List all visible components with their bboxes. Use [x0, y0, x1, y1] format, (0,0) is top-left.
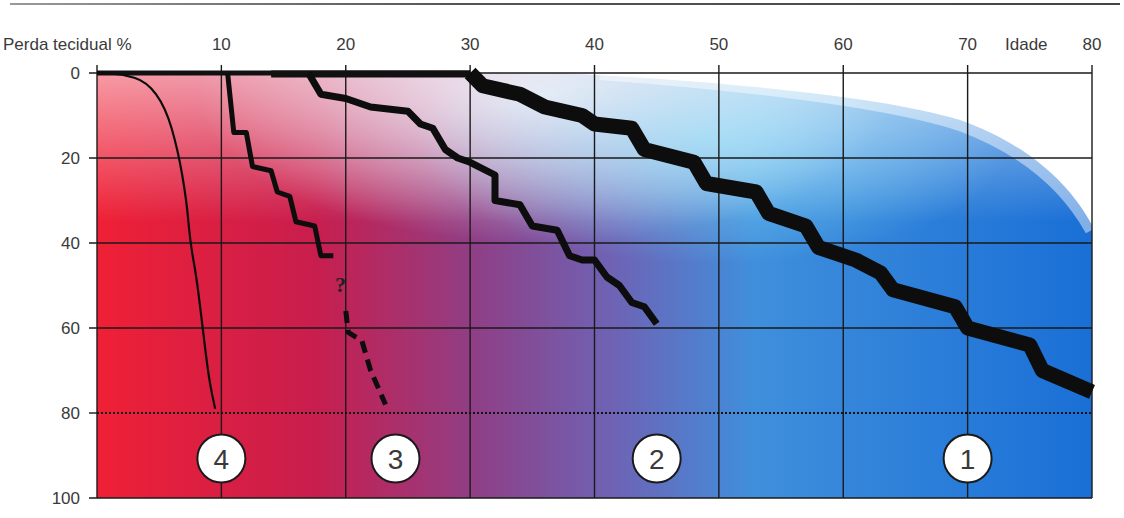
svg-text:2: 2	[649, 444, 665, 475]
x-axis-ticks: 1020304050607080	[212, 35, 1102, 54]
y-tick-label: 20	[61, 149, 80, 168]
x-tick-label: 80	[1083, 35, 1102, 54]
x-tick-label: 20	[336, 35, 355, 54]
y-tick-label: 80	[61, 404, 80, 423]
svg-text:1: 1	[960, 444, 976, 475]
y-axis-title: Perda tecidual %	[3, 35, 132, 54]
x-tick-label: 40	[585, 35, 604, 54]
x-tick-label: 60	[834, 35, 853, 54]
chart: 1020304050607080 020406080100 Perda teci…	[0, 0, 1124, 518]
y-tick-label: 40	[61, 234, 80, 253]
x-tick-label: 70	[958, 35, 977, 54]
x-axis-title: Idade	[1005, 35, 1048, 54]
badge-3: 3	[372, 435, 420, 483]
y-axis-ticks: 020406080100	[52, 64, 80, 508]
svg-text:4: 4	[214, 444, 230, 475]
y-tick-label: 60	[61, 319, 80, 338]
x-tick-label: 30	[461, 35, 480, 54]
badge-2: 2	[633, 435, 681, 483]
svg-text:3: 3	[388, 444, 404, 475]
x-tick-label: 50	[709, 35, 728, 54]
badge-4: 4	[197, 435, 245, 483]
y-tick-label: 0	[71, 64, 80, 83]
badge-1: 1	[944, 435, 992, 483]
y-tick-label: 100	[52, 489, 80, 508]
uncertain-question-mark: ?	[335, 272, 346, 297]
x-tick-label: 10	[212, 35, 231, 54]
